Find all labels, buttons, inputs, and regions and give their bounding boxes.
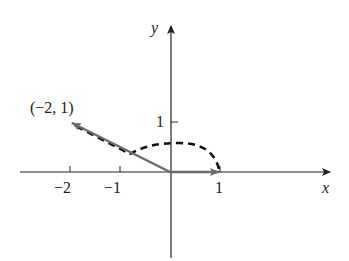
x-tick-label-minus2: −2 xyxy=(54,180,71,196)
y-tick-label-1: 1 xyxy=(156,114,164,130)
vector-minus2-1 xyxy=(72,123,170,172)
point-label: (−2, 1) xyxy=(30,100,74,116)
diagram-svg xyxy=(0,0,349,261)
rotation-arc xyxy=(72,124,219,169)
x-tick-label-minus1: −1 xyxy=(104,180,121,196)
x-axis-label: x xyxy=(322,180,329,196)
x-tick-label-1: 1 xyxy=(215,180,223,196)
diagram-canvas: y x −2 −1 1 1 (−2, 1) xyxy=(0,0,349,261)
y-axis-label: y xyxy=(151,20,158,36)
